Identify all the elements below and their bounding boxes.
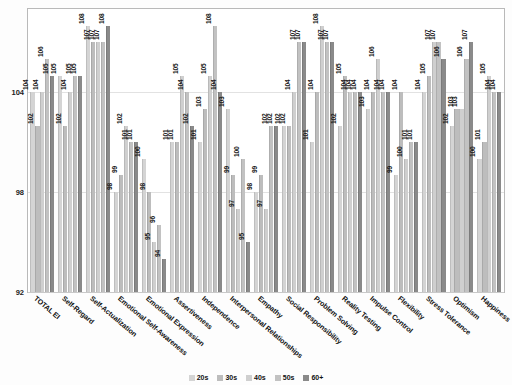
bar[interactable]: [441, 59, 445, 292]
bar-item[interactable]: 102: [63, 9, 67, 292]
bar-item[interactable]: 100: [142, 9, 146, 292]
bar-item[interactable]: 105: [78, 9, 82, 292]
bar-item[interactable]: 107: [297, 9, 301, 292]
bar-item[interactable]: 104: [348, 9, 352, 292]
bar-item[interactable]: 107: [330, 9, 334, 292]
bar-item[interactable]: 104: [30, 9, 34, 292]
bar[interactable]: [134, 142, 138, 292]
bar-item[interactable]: 104: [386, 9, 390, 292]
bar-item[interactable]: 105: [487, 9, 491, 292]
bar[interactable]: [78, 76, 82, 292]
legend-item[interactable]: 40s: [246, 374, 266, 381]
bar[interactable]: [325, 42, 329, 292]
bar[interactable]: [198, 142, 202, 292]
bar[interactable]: [320, 26, 324, 292]
bar[interactable]: [106, 26, 110, 292]
bar-item[interactable]: 102: [338, 9, 342, 292]
bar[interactable]: [101, 42, 105, 292]
bar-item[interactable]: 106: [45, 9, 49, 292]
bar[interactable]: [190, 126, 194, 292]
bar-item[interactable]: 107: [96, 9, 100, 292]
bar-item[interactable]: 104: [358, 9, 362, 292]
bar-item[interactable]: 104: [315, 9, 319, 292]
bar[interactable]: [73, 76, 77, 292]
bar[interactable]: [409, 142, 413, 292]
bar-item[interactable]: 105: [427, 9, 431, 292]
bar-item[interactable]: 102: [287, 9, 291, 292]
bar[interactable]: [254, 192, 258, 292]
bar-item[interactable]: 104: [185, 9, 189, 292]
bar-item[interactable]: 108: [86, 9, 90, 292]
bar[interactable]: [482, 142, 486, 292]
bar[interactable]: [469, 42, 473, 292]
bar-item[interactable]: 98: [254, 9, 258, 292]
bar[interactable]: [246, 242, 250, 292]
bar-item[interactable]: 102: [190, 9, 194, 292]
bar-item[interactable]: 105: [208, 9, 212, 292]
bar[interactable]: [50, 76, 54, 292]
bar[interactable]: [282, 126, 286, 292]
bar-item[interactable]: 101: [175, 9, 179, 292]
bar-item[interactable]: 108: [320, 9, 324, 292]
bar-item[interactable]: 107: [101, 9, 105, 292]
bar[interactable]: [310, 142, 314, 292]
bar[interactable]: [231, 175, 235, 292]
bar-item[interactable]: 103: [203, 9, 207, 292]
bar-item[interactable]: 106: [441, 9, 445, 292]
bar[interactable]: [297, 42, 301, 292]
bar[interactable]: [454, 109, 458, 292]
bar-item[interactable]: 108: [213, 9, 217, 292]
bar[interactable]: [203, 109, 207, 292]
bar-item[interactable]: 105: [58, 9, 62, 292]
bar[interactable]: [477, 159, 481, 292]
bar[interactable]: [348, 92, 352, 292]
bar-item[interactable]: 102: [274, 9, 278, 292]
bar-item[interactable]: 94: [162, 9, 166, 292]
bar-item[interactable]: 101: [129, 9, 133, 292]
bar[interactable]: [218, 92, 222, 292]
bar-item[interactable]: 105: [343, 9, 347, 292]
bar[interactable]: [422, 92, 426, 292]
bar[interactable]: [147, 192, 151, 292]
bar[interactable]: [386, 92, 390, 292]
bar[interactable]: [274, 126, 278, 292]
bar[interactable]: [175, 142, 179, 292]
bar[interactable]: [124, 126, 128, 292]
bar-item[interactable]: 104: [353, 9, 357, 292]
bar[interactable]: [208, 76, 212, 292]
bar-item[interactable]: 100: [241, 9, 245, 292]
bar[interactable]: [487, 76, 491, 292]
bar[interactable]: [353, 92, 357, 292]
bar[interactable]: [259, 175, 263, 292]
bar-item[interactable]: 105: [180, 9, 184, 292]
bar-item[interactable]: 108: [106, 9, 110, 292]
bar[interactable]: [213, 26, 217, 292]
bar-item[interactable]: 102: [124, 9, 128, 292]
bar[interactable]: [432, 42, 436, 292]
bar[interactable]: [497, 92, 501, 292]
bar[interactable]: [180, 76, 184, 292]
bar[interactable]: [450, 126, 454, 292]
bar-item[interactable]: 101: [198, 9, 202, 292]
bar[interactable]: [91, 42, 95, 292]
bar-item[interactable]: 98: [114, 9, 118, 292]
bar-item[interactable]: 104: [292, 9, 296, 292]
bar[interactable]: [269, 126, 273, 292]
bar-item[interactable]: 95: [246, 9, 250, 292]
bar-item[interactable]: 99: [119, 9, 123, 292]
bar-item[interactable]: 107: [325, 9, 329, 292]
bar[interactable]: [45, 59, 49, 292]
bar-item[interactable]: 101: [482, 9, 486, 292]
bar[interactable]: [315, 92, 319, 292]
bar[interactable]: [381, 92, 385, 292]
bar[interactable]: [129, 142, 133, 292]
bar[interactable]: [394, 175, 398, 292]
bar-item[interactable]: 100: [404, 9, 408, 292]
bar[interactable]: [236, 209, 240, 292]
bar[interactable]: [40, 92, 44, 292]
legend-item[interactable]: 20s: [189, 374, 209, 381]
bar[interactable]: [264, 209, 268, 292]
bar[interactable]: [338, 126, 342, 292]
bar[interactable]: [492, 92, 496, 292]
legend-item[interactable]: 50s: [275, 374, 295, 381]
